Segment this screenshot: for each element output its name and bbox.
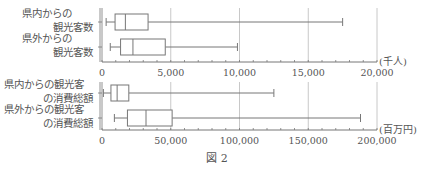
category-label: 観光客数 [53, 46, 94, 58]
figure-caption: 図 2 [0, 149, 434, 165]
x-tick-label: 15,000 [292, 67, 325, 78]
x-tick-label: 100,000 [220, 135, 259, 146]
x-tick-label: 150,000 [289, 135, 328, 146]
x-tick-label: 5,000 [157, 67, 184, 78]
x-tick-label: 0 [99, 135, 105, 146]
category-label: 県内からの [22, 7, 72, 19]
category-label: 県外からの観光客 [4, 103, 85, 115]
x-tick-label: 10,000 [223, 67, 256, 78]
box-iqr [111, 85, 129, 101]
x-tick-label: 20,000 [360, 67, 393, 78]
category-label: 県内からの観光客 [4, 78, 85, 90]
category-label: 県外からの [22, 32, 72, 44]
category-label: の消費総額 [43, 117, 94, 129]
x-tick-label: 0 [99, 67, 105, 78]
box-iqr [121, 39, 166, 55]
boxplot-figure: 05,00010,00015,00020,000(千人)県内からの観光客数県外か… [0, 0, 434, 172]
x-tick-label: 50,000 [154, 135, 187, 146]
box-iqr [115, 14, 148, 30]
box-iqr [127, 110, 172, 126]
x-tick-label: 200,000 [357, 135, 396, 146]
unit-label: (千人) [379, 56, 407, 67]
unit-label: (百万円) [379, 124, 417, 135]
figure: 05,00010,00015,00020,000(千人)県内からの観光客数県外か… [0, 0, 434, 172]
